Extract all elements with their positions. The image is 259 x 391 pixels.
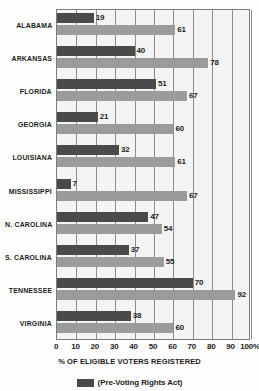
bar-track: 40 <box>57 46 251 56</box>
category-axis-labels: ALABAMAARKANSASFLORIDAGEORGIALOUISIANAMI… <box>0 9 52 340</box>
x-tick-label: 60 <box>168 342 177 351</box>
bar-group: 767 <box>57 176 249 209</box>
bar-group: 3860 <box>57 308 249 341</box>
bar-group: 1961 <box>57 10 249 43</box>
bar <box>57 257 164 267</box>
legend-label: (Pre-Voting Rights Act) <box>98 378 183 387</box>
bar-value-label: 32 <box>121 146 130 154</box>
category-label: ARKANSAS <box>11 42 52 75</box>
bar-track: 70 <box>57 278 251 288</box>
bar-value-label: 61 <box>177 158 186 166</box>
category-label: MISSISSIPPI <box>9 175 52 208</box>
x-tick-label: 40 <box>129 342 138 351</box>
x-tick-label: 90 <box>226 342 235 351</box>
bar-track: 67 <box>57 91 251 101</box>
bar <box>57 25 175 35</box>
bar-group: 4078 <box>57 43 249 76</box>
bar-value-label: 92 <box>237 291 246 299</box>
bar-track: 32 <box>57 145 251 155</box>
bar-track: 7 <box>57 179 251 189</box>
x-tick-label: 0 <box>54 342 58 351</box>
chart-page: ALABAMAARKANSASFLORIDAGEORGIALOUISIANAMI… <box>0 0 259 391</box>
bar <box>57 112 98 122</box>
bar-group: 7092 <box>57 275 249 308</box>
bar <box>57 58 208 68</box>
bar <box>57 157 175 167</box>
bar <box>57 124 173 134</box>
bar <box>57 79 156 89</box>
bar-value-label: 38 <box>133 312 142 320</box>
bar-track: 92 <box>57 290 251 300</box>
category-label: VIRGINIA <box>20 307 52 340</box>
bar <box>57 311 131 321</box>
category-label: ALABAMA <box>16 9 52 42</box>
category-label: FLORIDA <box>20 75 52 108</box>
bar-value-label: 60 <box>175 324 184 332</box>
x-tick-label: 80 <box>207 342 216 351</box>
bar-track: 47 <box>57 212 251 222</box>
bar <box>57 91 187 101</box>
x-tick-label: 100% <box>240 342 259 351</box>
bar-value-label: 67 <box>189 92 198 100</box>
bar-value-label: 70 <box>195 279 204 287</box>
x-tick-label: 70 <box>188 342 197 351</box>
bar-group: 3755 <box>57 242 249 275</box>
bar-value-label: 60 <box>175 125 184 133</box>
bar-value-label: 78 <box>210 59 219 67</box>
gridline <box>251 10 252 339</box>
bar-value-label: 19 <box>96 14 105 22</box>
bar <box>57 212 148 222</box>
bar <box>57 224 162 234</box>
bar-track: 60 <box>57 323 251 333</box>
bar-value-label: 47 <box>150 213 159 221</box>
bar-track: 61 <box>57 157 251 167</box>
bar-track: 61 <box>57 25 251 35</box>
category-label: TENNESSEE <box>9 274 52 307</box>
category-label: S. CAROLINA <box>5 241 52 274</box>
x-tick-label: 50 <box>149 342 158 351</box>
bar <box>57 290 235 300</box>
bar-track: 78 <box>57 58 251 68</box>
bar-groups: 196140785167216032617674754375570923860 <box>57 10 249 339</box>
category-label: LOUISIANA <box>12 141 52 174</box>
bar-track: 38 <box>57 311 251 321</box>
legend-swatch <box>77 379 94 387</box>
chart-legend: (Pre-Voting Rights Act) <box>0 378 259 387</box>
bar <box>57 323 173 333</box>
bar-value-label: 55 <box>166 258 175 266</box>
bar-group: 2160 <box>57 109 249 142</box>
x-axis-tick-labels: 0102030405060708090100% <box>56 342 250 354</box>
x-axis-title: % OF ELIGIBLE VOTERS REGISTERED <box>0 357 259 366</box>
category-label: N. CAROLINA <box>5 208 52 241</box>
bar-group: 4754 <box>57 209 249 242</box>
bar-value-label: 67 <box>189 192 198 200</box>
bar <box>57 191 187 201</box>
bar-value-label: 21 <box>100 113 109 121</box>
bar-track: 21 <box>57 112 251 122</box>
bar-group: 5167 <box>57 76 249 109</box>
bar <box>57 245 129 255</box>
bar <box>57 46 135 56</box>
x-tick-label: 10 <box>71 342 80 351</box>
category-label: GEORGIA <box>18 108 52 141</box>
bar-track: 54 <box>57 224 251 234</box>
bar-group: 3261 <box>57 142 249 175</box>
bar-track: 60 <box>57 124 251 134</box>
bar-track: 67 <box>57 191 251 201</box>
bar-value-label: 51 <box>158 80 167 88</box>
bar-value-label: 37 <box>131 246 140 254</box>
bar-track: 19 <box>57 13 251 23</box>
bar <box>57 179 71 189</box>
bar-value-label: 7 <box>73 180 77 188</box>
bar-track: 51 <box>57 79 251 89</box>
bar-value-label: 40 <box>137 47 146 55</box>
bar-track: 55 <box>57 257 251 267</box>
plot-area: 196140785167216032617674754375570923860 <box>56 9 250 340</box>
bar-value-label: 54 <box>164 225 173 233</box>
legend-entry: (Pre-Voting Rights Act) <box>77 378 183 387</box>
x-tick-label: 20 <box>91 342 100 351</box>
bar-value-label: 61 <box>177 26 186 34</box>
bar <box>57 145 119 155</box>
bar <box>57 13 94 23</box>
bar <box>57 278 193 288</box>
